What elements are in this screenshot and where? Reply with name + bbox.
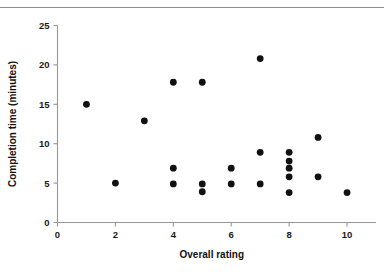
plot-axes — [58, 26, 377, 223]
data-point — [286, 165, 293, 172]
data-point — [315, 173, 322, 180]
data-point — [83, 101, 90, 108]
y-tick-label: 25 — [39, 20, 50, 31]
y-tick-label: 10 — [39, 138, 50, 149]
data-point — [257, 180, 264, 187]
y-axis-title: Completion time (minutes) — [7, 61, 18, 187]
data-point — [199, 180, 206, 187]
data-point — [286, 149, 293, 156]
data-point — [170, 165, 177, 172]
data-point — [199, 188, 206, 195]
data-point — [112, 180, 119, 187]
figure-container: 0510152025 0246810 Completion time (minu… — [0, 0, 384, 272]
data-point — [286, 189, 293, 196]
data-point — [228, 165, 235, 172]
data-points — [83, 55, 350, 196]
x-tick-label: 8 — [286, 229, 291, 240]
x-axis-ticks: 0246810 — [55, 223, 352, 240]
data-point — [199, 79, 206, 86]
data-point — [286, 173, 293, 180]
data-point — [228, 180, 235, 187]
data-point — [257, 55, 264, 62]
data-point — [344, 189, 351, 196]
x-tick-label: 4 — [171, 229, 177, 240]
data-point — [315, 134, 322, 141]
x-tick-label: 6 — [229, 229, 234, 240]
y-tick-label: 15 — [39, 99, 50, 110]
x-tick-label: 0 — [55, 229, 60, 240]
x-tick-label: 2 — [113, 229, 118, 240]
data-point — [257, 149, 264, 156]
scatter-plot: 0510152025 0246810 Completion time (minu… — [0, 0, 384, 272]
y-tick-label: 20 — [39, 59, 50, 70]
y-axis-ticks: 0510152025 — [39, 20, 58, 228]
y-tick-label: 5 — [44, 178, 50, 189]
data-point — [141, 117, 148, 124]
y-tick-label: 0 — [44, 217, 49, 228]
x-tick-label: 10 — [342, 229, 353, 240]
data-point — [286, 158, 293, 165]
data-point — [170, 79, 177, 86]
data-point — [170, 180, 177, 187]
x-axis-title: Overall rating — [180, 249, 244, 260]
